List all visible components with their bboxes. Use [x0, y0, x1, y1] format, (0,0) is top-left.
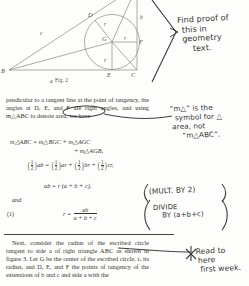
frac-num-c: 1: [78, 159, 81, 165]
figure-side-b: b: [140, 14, 143, 20]
figure-radius-2: r: [104, 57, 107, 63]
equation-area-sum-line2: + m△AGB,: [74, 147, 103, 154]
annotation-find-proof: Find proof of this in geometry text.: [177, 12, 247, 54]
frac-num-b: 1: [55, 159, 58, 165]
frac-den-d: 2: [101, 165, 104, 172]
frac-den-a: 2: [31, 165, 34, 172]
section-rule: [4, 234, 174, 235]
frac-den-c: 2: [78, 165, 81, 172]
annotation-read-to-here: Read to here first week.: [195, 245, 241, 275]
figure-side-a: a: [50, 78, 53, 84]
annotation-mult-by-two: (MULT. BY 2): [149, 185, 196, 197]
equation-area-sum-line1: m△ABC = m△BGC + m△AGC: [10, 138, 91, 145]
figure-label-D: D: [87, 11, 93, 18]
printed-paragraph-1: pendicular to a tangent line at the poin…: [6, 96, 149, 120]
figure-label-G: G: [102, 35, 107, 42]
and-connector: and: [12, 196, 21, 203]
equation-radius-numerator: ab: [82, 207, 88, 213]
figure-caption: Fig. 2: [55, 77, 68, 83]
frac-den-b: 2: [55, 165, 58, 172]
equation-half-products: (12)ab = (12)ar + (12)br + (12)cr,: [27, 160, 114, 172]
printed-paragraph-2: Next, consider the radius of the escribe…: [6, 239, 149, 279]
figure-radius-1: r: [104, 21, 107, 27]
equation-radius-lhs: r =: [63, 210, 71, 217]
figure-label-F: F: [138, 38, 143, 45]
frac-num-d: 1: [101, 159, 104, 165]
annotation-m-symbol: “m△” is the symbol for △ area, not “m△AB…: [169, 102, 248, 141]
frac-num-a: 1: [31, 159, 34, 165]
figure-label-B: B: [1, 67, 5, 74]
equation-ab-equals: ab = r (a + b + c),: [44, 182, 91, 189]
figure-label-E: E: [106, 71, 111, 78]
scanned-page: B C D E F G a b c r r r Fig. 2 pendicula…: [0, 0, 249, 286]
annotation-divide-by: DIVIDE BY (a+b+c): [153, 202, 204, 221]
annotation-read-to-here-line3: first week.: [196, 263, 241, 274]
annotation-divide-by-line2: BY (a+b+c): [153, 211, 204, 221]
geometry-figure: B C D E F G a b c r r r Fig. 2: [0, 0, 152, 88]
figure-label-C: C: [131, 71, 136, 78]
figure-side-c: c: [40, 30, 43, 36]
figure-radius-3: r: [124, 35, 127, 41]
equation-radius-formula: r = ab a + b + c: [63, 207, 98, 222]
annotation-m-symbol-line4: “m△ABC”.: [170, 129, 248, 141]
equation-number: (1): [7, 211, 14, 217]
equation-radius-denominator: a + b + c: [74, 213, 97, 221]
figure-drawing: B C D E F G a b c r r r: [0, 0, 152, 88]
